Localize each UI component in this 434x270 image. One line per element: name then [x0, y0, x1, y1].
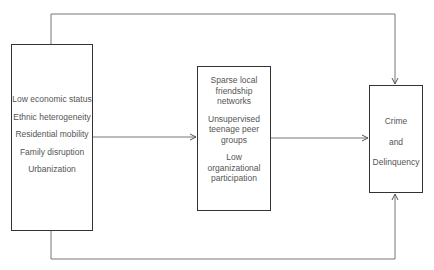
text-line: friendship	[198, 86, 270, 97]
low-participation-group: Low organizational participation	[198, 152, 270, 184]
outcome-crime: Crime	[370, 116, 422, 127]
text-line: networks	[198, 96, 270, 107]
factor-low-economic-status: Low economic status	[12, 94, 92, 105]
text-line: participation	[198, 173, 270, 184]
unsupervised-peers-group: Unsupervised teenage peer groups	[198, 114, 270, 146]
outcome-and: and	[370, 137, 422, 148]
text-line: Unsupervised	[198, 114, 270, 125]
outcome-delinquency: Delinquency	[370, 157, 422, 168]
social-disorganization-box: Sparse local friendship networks Unsuper…	[197, 66, 271, 211]
text-line: Low	[198, 152, 270, 163]
text-line: organizational	[198, 163, 270, 174]
factor-residential-mobility: Residential mobility	[12, 129, 92, 140]
factor-ethnic-heterogeneity: Ethnic heterogeneity	[12, 112, 92, 123]
text-line: teenage peer	[198, 124, 270, 135]
factor-urbanization: Urbanization	[12, 164, 92, 175]
text-line: groups	[198, 135, 270, 146]
sparse-networks-group: Sparse local friendship networks	[198, 75, 270, 107]
text-line: Sparse local	[198, 75, 270, 86]
neighborhood-structure-box: Low economic status Ethnic heterogeneity…	[11, 44, 93, 231]
factor-family-disruption: Family disruption	[12, 147, 92, 158]
crime-delinquency-box: Crime and Delinquency	[369, 85, 423, 193]
